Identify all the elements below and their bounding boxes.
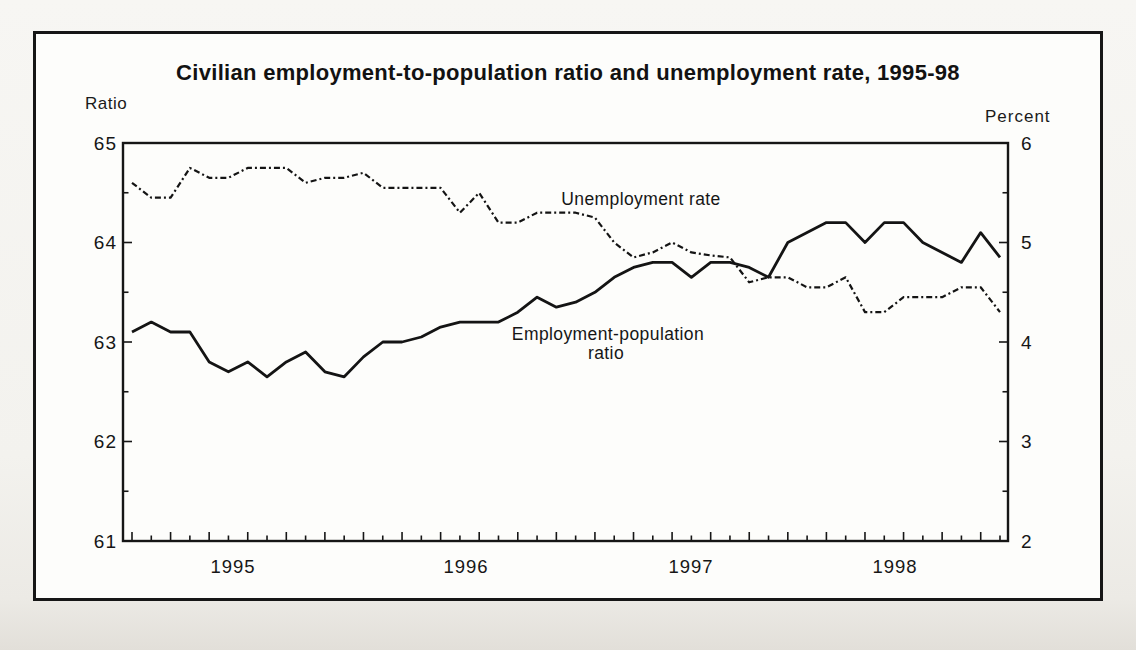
- right-axis-tick-label: 3: [1021, 431, 1032, 452]
- employment-population-label: Employment-population: [512, 324, 704, 344]
- left-axis-tick-label: 65: [94, 133, 117, 154]
- x-axis-year-label: 1996: [443, 556, 488, 577]
- x-axis-year-label: 1998: [872, 556, 917, 577]
- left-axis-tick-label: 64: [94, 232, 117, 253]
- employment-population-label: ratio: [588, 343, 624, 363]
- right-axis-tick-label: 6: [1021, 133, 1032, 154]
- right-axis-tick-label: 5: [1021, 232, 1032, 253]
- x-axis-year-label: 1995: [210, 556, 255, 577]
- right-axis-tick-label: 2: [1021, 531, 1032, 552]
- left-axis-tick-label: 63: [94, 332, 117, 353]
- employment-population-line: [132, 223, 1000, 377]
- scanned-page: Civilian employment-to-population ratio …: [0, 0, 1136, 650]
- unemployment-rate-label: Unemployment rate: [561, 189, 721, 209]
- left-axis-tick-label: 62: [94, 431, 117, 452]
- x-axis-year-label: 1997: [668, 556, 713, 577]
- line-chart: 6162636465234561995199619971998Employmen…: [0, 0, 1136, 650]
- right-axis-tick-label: 4: [1021, 332, 1032, 353]
- left-axis-tick-label: 61: [94, 531, 117, 552]
